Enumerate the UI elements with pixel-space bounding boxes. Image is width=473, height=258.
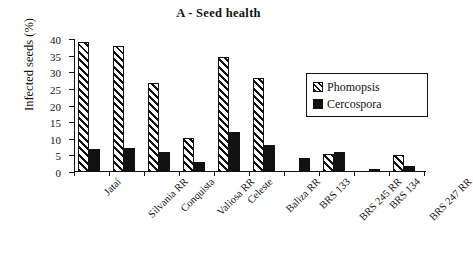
legend-label-phomopsis: Phomopsis bbox=[327, 81, 380, 93]
y-tick-label: 15 bbox=[50, 117, 61, 129]
legend-item-phomopsis: Phomopsis bbox=[313, 78, 422, 95]
bar-group bbox=[179, 39, 214, 172]
bar-cercospora bbox=[369, 169, 380, 172]
y-tick-label: 20 bbox=[50, 101, 61, 113]
bar-group bbox=[109, 39, 144, 172]
y-tick-label: 25 bbox=[50, 84, 61, 96]
bar-phomopsis bbox=[183, 138, 194, 172]
legend-swatch-phomopsis-icon bbox=[313, 82, 323, 92]
y-tick-label: 35 bbox=[50, 51, 61, 63]
x-axis-labels: JataíSilvania RRConquistaValiosa RRCeles… bbox=[74, 176, 424, 254]
x-axis-label: Baliza RR bbox=[283, 176, 322, 215]
legend-label-cercospora: Cercospora bbox=[327, 98, 382, 110]
bar-group bbox=[144, 39, 179, 172]
bar-cercospora bbox=[404, 166, 415, 172]
x-axis-label: Jataí bbox=[101, 176, 122, 197]
y-tick-label: 0 bbox=[56, 167, 62, 179]
legend-item-cercospora: Cercospora bbox=[313, 95, 422, 112]
bar-phomopsis bbox=[323, 154, 334, 172]
y-axis-label: Infected seeds (%) bbox=[22, 0, 37, 140]
bar-group bbox=[214, 39, 249, 172]
bar-phomopsis bbox=[113, 46, 124, 172]
y-tick-label: 40 bbox=[50, 34, 61, 46]
bar-phomopsis bbox=[218, 57, 229, 172]
bar-cercospora bbox=[89, 149, 100, 172]
y-tick-label: 5 bbox=[56, 150, 62, 162]
bar-cercospora bbox=[159, 152, 170, 172]
y-tick-label: 30 bbox=[50, 67, 61, 79]
bar-cercospora bbox=[124, 148, 135, 172]
bar-cercospora bbox=[334, 152, 345, 172]
bar-group bbox=[74, 39, 109, 172]
bar-cercospora bbox=[264, 145, 275, 172]
y-tick-label: 10 bbox=[50, 134, 61, 146]
chart-title: A - Seed health bbox=[0, 6, 437, 21]
bar-phomopsis bbox=[78, 42, 89, 172]
x-axis-label: BRS 247 RR bbox=[427, 176, 473, 223]
legend-swatch-cercospora-icon bbox=[313, 99, 323, 109]
bar-phomopsis bbox=[393, 155, 404, 172]
bar-phomopsis bbox=[148, 83, 159, 172]
x-axis-label: BRS 133 bbox=[317, 176, 352, 211]
bar-phomopsis bbox=[253, 78, 264, 172]
x-axis-label: Silvania RR bbox=[146, 176, 190, 220]
chart-legend: Phomopsis Cercospora bbox=[306, 73, 428, 117]
bar-cercospora bbox=[194, 162, 205, 172]
bar-cercospora bbox=[299, 158, 310, 172]
bar-cercospora bbox=[229, 132, 240, 172]
x-tick bbox=[424, 172, 425, 176]
bar-group bbox=[249, 39, 284, 172]
